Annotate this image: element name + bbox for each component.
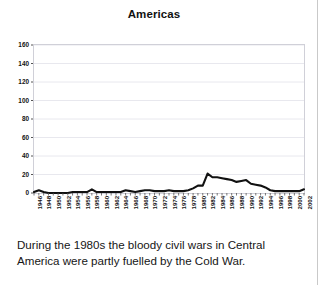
y-tick-label: 20 bbox=[22, 171, 30, 178]
x-tick-label: 2000 bbox=[297, 196, 303, 209]
x-tick-label: 1990 bbox=[249, 196, 255, 209]
x-tick-label: 2002 bbox=[307, 196, 313, 209]
x-axis-tick-labels: 1946194819501952195419561958196019621964… bbox=[0, 196, 314, 236]
x-tick-label: 1952 bbox=[66, 196, 72, 209]
x-tick-label: 1956 bbox=[85, 196, 91, 209]
x-tick-label: 1980 bbox=[201, 196, 207, 209]
line-chart-svg: 020406080100120140160 bbox=[0, 36, 314, 216]
figure-americas: Americas 020406080100120140160 194619481… bbox=[0, 0, 314, 285]
y-tick-label: 60 bbox=[22, 134, 30, 141]
y-tick-label: 40 bbox=[22, 152, 30, 159]
x-tick-label: 1962 bbox=[114, 196, 120, 209]
data-series-line bbox=[34, 174, 304, 193]
x-tick-label: 1950 bbox=[56, 196, 62, 209]
x-tick-label: 1976 bbox=[181, 196, 187, 209]
chart-title: Americas bbox=[0, 8, 308, 20]
y-tick-label: 80 bbox=[22, 115, 30, 122]
page-canvas: Americas 020406080100120140160 194619481… bbox=[0, 0, 330, 285]
y-tick-label: 120 bbox=[18, 78, 29, 85]
gridlines-group bbox=[34, 45, 304, 175]
figure-caption: During the 1980s the bloody civil wars i… bbox=[17, 237, 302, 268]
x-tick-label: 1958 bbox=[94, 196, 100, 209]
x-tick-label: 1994 bbox=[268, 196, 274, 209]
x-tick-label: 1986 bbox=[229, 196, 235, 209]
x-tick-label: 1972 bbox=[162, 196, 168, 209]
x-tick-label: 1954 bbox=[75, 196, 81, 209]
x-tick-label: 1948 bbox=[46, 196, 52, 209]
y-tick-label-group: 020406080100120140160 bbox=[18, 41, 29, 196]
x-tick-label: 1946 bbox=[37, 196, 43, 209]
x-tick-label: 1982 bbox=[210, 196, 216, 209]
y-tick-label: 160 bbox=[18, 41, 29, 48]
x-tick-label: 1978 bbox=[191, 196, 197, 209]
x-tick-label: 1970 bbox=[152, 196, 158, 209]
x-tick-label: 1968 bbox=[143, 196, 149, 209]
x-tick-label: 1996 bbox=[278, 196, 284, 209]
x-tick-label: 1988 bbox=[239, 196, 245, 209]
x-tick-label: 1960 bbox=[104, 196, 110, 209]
x-tick-label: 1974 bbox=[172, 196, 178, 209]
x-tick-label: 1984 bbox=[220, 196, 226, 209]
x-tick-label: 1992 bbox=[258, 196, 264, 209]
x-tick-label: 1998 bbox=[287, 196, 293, 209]
y-tick-label: 100 bbox=[18, 97, 29, 104]
x-tick-label: 1966 bbox=[133, 196, 139, 209]
page-gutter-rule bbox=[317, 0, 318, 285]
y-tick-label: 140 bbox=[18, 60, 29, 67]
x-tick-label: 1964 bbox=[123, 196, 129, 209]
plot-area: 020406080100120140160 bbox=[0, 36, 314, 216]
